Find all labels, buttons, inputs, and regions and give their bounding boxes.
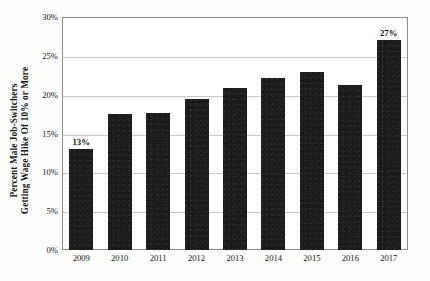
bar[interactable]: [300, 72, 324, 250]
bar-slot: 13%: [69, 17, 93, 250]
bar[interactable]: [377, 40, 401, 250]
bar[interactable]: [261, 78, 285, 250]
bar-value-label: 13%: [59, 137, 103, 147]
bar-slot: 27%: [377, 17, 401, 250]
bar-slot: [300, 17, 324, 250]
y-axis-title-line-1: Percent Male Job-Switchers: [9, 84, 20, 198]
bar-slot: [146, 17, 170, 250]
y-axis-tick-label: 25%: [18, 51, 58, 61]
bar-slot: [185, 17, 209, 250]
bar-slot: [338, 17, 362, 250]
y-axis-tick-label: 30%: [18, 12, 58, 22]
y-axis-tick-label: 0%: [18, 245, 58, 255]
y-axis-title: Percent Male Job-Switchers Getting Wage …: [0, 0, 40, 281]
bar-slot: [108, 17, 132, 250]
bar[interactable]: [185, 99, 209, 250]
bar[interactable]: [69, 149, 93, 250]
bar-chart-figure: Percent Male Job-Switchers Getting Wage …: [0, 0, 430, 281]
bar-value-label: 27%: [367, 28, 411, 38]
x-axis-tick-label: 2017: [366, 253, 412, 263]
bar[interactable]: [108, 114, 132, 250]
bar[interactable]: [223, 88, 247, 250]
bar-slot: [261, 17, 285, 250]
y-axis-tick-label: 15%: [18, 129, 58, 139]
bar-slot: [223, 17, 247, 250]
bar[interactable]: [338, 85, 362, 250]
bar[interactable]: [146, 113, 170, 250]
y-axis-tick-label: 10%: [18, 167, 58, 177]
y-axis-tick-label: 20%: [18, 90, 58, 100]
bars-layer: 13%27%: [62, 17, 408, 250]
y-axis-tick-label: 5%: [18, 206, 58, 216]
x-axis-tick-labels: 200920102011201220132014201520162017: [62, 253, 408, 273]
